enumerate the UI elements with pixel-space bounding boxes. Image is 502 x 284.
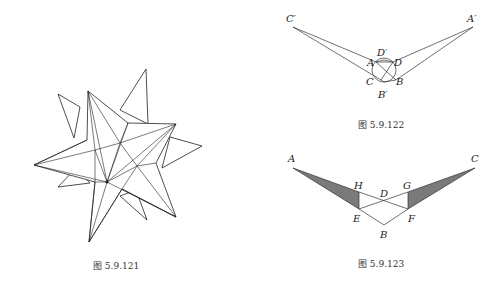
label-h: H (353, 180, 363, 191)
label-a-prime: A′ (466, 13, 477, 24)
label-e: E (352, 213, 361, 224)
label-f: F (407, 213, 416, 224)
label-d-prime: D′ (376, 47, 388, 58)
back-spike-upper-left (58, 94, 80, 138)
label-c: C (471, 153, 479, 164)
label-a: A (287, 153, 295, 164)
label-g: G (403, 180, 411, 191)
label-c: C (366, 76, 374, 87)
front-star-body (34, 91, 176, 242)
back-spike-top-right (120, 69, 148, 124)
label-b: B (395, 76, 403, 87)
figure-caption-121: 图 5.9.121 (93, 259, 139, 272)
label-b: B (379, 229, 387, 240)
shaded-triangle-left (293, 168, 359, 209)
label-c-prime: C′ (286, 13, 297, 24)
label-a: A (366, 57, 374, 68)
label-d: D (379, 188, 388, 199)
label-d: D (393, 57, 402, 68)
figure-122-diagram: C′ A′ D′ A D C B B′ (251, 0, 502, 110)
star-polyhedron-figure (0, 0, 251, 260)
figure-123-diagram: A C H D G E F B (251, 142, 502, 252)
shaded-triangle-right (408, 168, 475, 209)
figure-caption-123: 图 5.9.123 (358, 257, 404, 270)
figure-caption-122: 图 5.9.122 (358, 118, 404, 131)
back-spike-right (162, 137, 202, 168)
label-b-prime: B′ (377, 89, 388, 100)
